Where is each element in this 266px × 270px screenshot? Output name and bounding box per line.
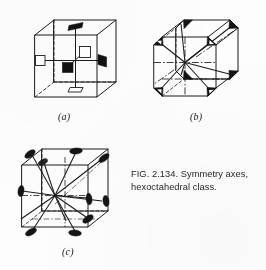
panel-c-label: (c) bbox=[62, 246, 74, 257]
cube-two-fold-axes-svg bbox=[16, 143, 120, 239]
panel-b-diagram bbox=[148, 18, 246, 106]
panel-a-diagram bbox=[30, 16, 122, 106]
cube-four-fold-axes-svg bbox=[30, 16, 122, 106]
panel-a-label: (a) bbox=[58, 111, 70, 122]
truncated-cube-three-fold-axes-svg bbox=[148, 18, 246, 106]
figure-caption: FIG. 2.134. Symmetry axes, hexoctahedral… bbox=[131, 168, 266, 193]
three-fold-axis-markers bbox=[154, 20, 239, 97]
panel-b-label: (b) bbox=[190, 111, 202, 122]
figure-caption-line-2: hexoctahedral class. bbox=[131, 181, 266, 194]
four-fold-axis-marker-back bbox=[80, 47, 91, 58]
four-fold-axis-marker-bottom bbox=[68, 88, 83, 93]
four-fold-axis-marker-front bbox=[63, 63, 74, 73]
four-fold-axis-marker-left bbox=[36, 56, 46, 66]
four-fold-axis-marker-right bbox=[98, 55, 107, 68]
figure-caption-line-1: FIG. 2.134. Symmetry axes, bbox=[131, 168, 266, 181]
figure-page: (a) bbox=[0, 0, 266, 270]
panel-c-diagram bbox=[16, 143, 120, 239]
